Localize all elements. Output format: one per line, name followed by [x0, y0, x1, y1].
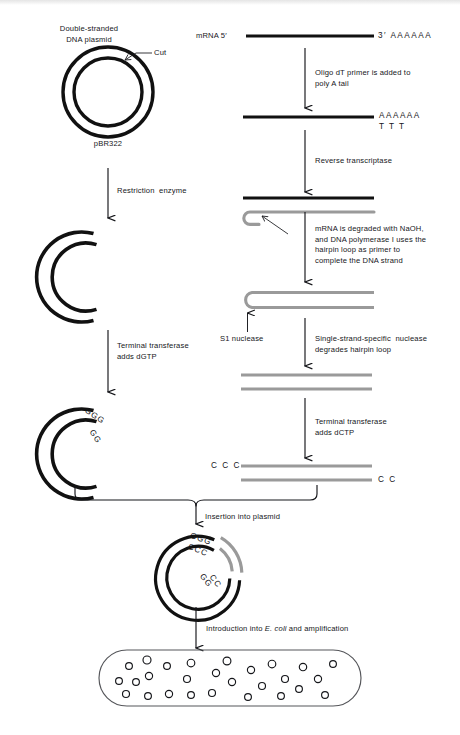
cdna-blunt-duplex	[241, 375, 372, 389]
cdna-hairpin-duplex	[246, 293, 374, 308]
cdna-tail-cc: C C	[378, 475, 397, 484]
step-naoh-line4: complete the DNA strand	[315, 256, 403, 267]
step-reverse-transcriptase-label: Reverse transcriptase	[315, 156, 392, 167]
plasmid-name-label: pBR322	[68, 139, 148, 150]
step-s1-nuclease-line2: degrades hairpin loop	[315, 345, 391, 356]
mrna-5prime-label: mRNA 5′	[196, 31, 227, 42]
cloning-diagram: Double-stranded DNA plasmid Cut pBR322 R…	[0, 0, 460, 735]
step-terminal-transferase-dgtp-line1: Terminal transferase	[117, 341, 189, 352]
plasmid-title-line2: DNA plasmid	[34, 35, 144, 46]
step-terminal-transferase-dgtp-line2: adds dGTP	[117, 352, 157, 363]
step-terminal-transferase-dctp-line1: Terminal transferase	[315, 417, 387, 428]
plasmid-linearized	[37, 232, 97, 322]
ecoli-species-name: E. coli	[265, 624, 287, 633]
step-naoh-line3: hairpin loop as primer to	[315, 245, 400, 256]
cdna-tail-ccc: C C C	[211, 461, 241, 470]
step-oligo-dt-line2: poly A tail	[315, 79, 349, 90]
step-s1-nuclease-line1: Single-strand-specific nuclease	[315, 334, 427, 345]
mrna-3prime-polya-label: 3′ AAAAAA	[378, 31, 432, 40]
introduction-ecoli-label: Introduction into E. coli and amplificat…	[206, 624, 348, 635]
plasmid-title-line1: Double-stranded	[34, 24, 144, 35]
merge-bracket	[75, 485, 317, 506]
oligo-dt-primer-label: T T T	[379, 122, 405, 131]
plasmid-pbr322	[63, 47, 153, 137]
ecoli-label-suffix: and amplification	[287, 624, 349, 633]
polya-tail-label: AAAAAA	[379, 111, 421, 120]
insertion-into-plasmid-label: Insertion into plasmid	[205, 512, 280, 523]
cdna-with-c-tails	[241, 466, 372, 480]
ecoli-plasmid-copies	[116, 656, 337, 700]
step-restriction-enzyme-label: Restriction enzyme	[117, 186, 187, 197]
s1-nuclease-label: S1 nuclease	[220, 334, 263, 345]
hairpin-pointer	[262, 216, 288, 234]
mrna-cdna-hybrid	[243, 198, 374, 224]
cut-label: Cut	[154, 48, 166, 59]
step-oligo-dt-line1: Oligo dT primer is added to	[315, 68, 411, 79]
ecoli-label-prefix: Introduction into	[206, 624, 265, 633]
step-naoh-line2: and DNA polymerase I uses the	[315, 235, 426, 246]
plasmid-with-g-tails	[37, 409, 97, 499]
step-naoh-line1: mRNA is degraded with NaOH,	[315, 224, 424, 235]
step-terminal-transferase-dctp-line2: adds dCTP	[315, 428, 354, 439]
